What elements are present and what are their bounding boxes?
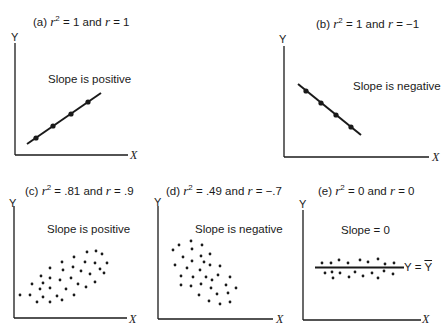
panel-b-plot xyxy=(290,0,441,165)
panel-c-plot xyxy=(0,170,150,334)
panel-a: (a) r2 = 1 and r = 1 Y X Slope is positi… xyxy=(0,0,150,165)
panel-a-plot xyxy=(0,0,150,165)
panel-e-plot xyxy=(290,170,441,334)
panel-e: (e) r2 = 0 and r = 0 Y X Slope = 0 Y = Y xyxy=(290,170,441,334)
panel-d: (d) r2 = .49 and r = −.7 Y X Slope is ne… xyxy=(150,170,290,334)
y-axis-label: Y xyxy=(279,33,286,45)
panel-d-plot xyxy=(150,170,290,334)
panel-b: (b) r2 = 1 and r = −1 Y X Slope is negat… xyxy=(290,0,441,165)
panel-c: (c) r2 = .81 and r = .9 Y X Slope is pos… xyxy=(0,170,150,334)
